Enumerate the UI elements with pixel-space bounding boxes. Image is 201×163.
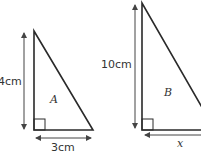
right-angle-mark-b [142, 119, 153, 130]
base-label-b: x [177, 137, 184, 150]
base-label-a: 3cm [51, 141, 75, 154]
height-label-a: 4cm [0, 75, 22, 88]
right-angle-mark-a [34, 119, 45, 130]
similar-triangles-diagram: 4cm 3cm A 10cm x B [0, 0, 201, 163]
triangle-b-name: B [163, 86, 172, 99]
height-label-b: 10cm [101, 58, 132, 71]
triangle-a: 4cm 3cm A [0, 31, 93, 154]
triangle-b: 10cm x B [101, 3, 201, 150]
triangle-a-name: A [49, 93, 58, 106]
triangle-a-shape [34, 31, 93, 130]
triangle-b-shape [142, 3, 201, 130]
